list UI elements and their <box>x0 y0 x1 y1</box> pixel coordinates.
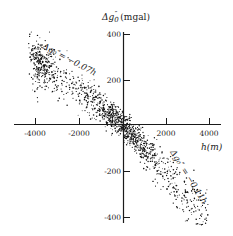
y-tick-label: 400 <box>107 30 122 39</box>
x-tick-label: 2000 <box>156 129 175 138</box>
x-tick-label: -4000 <box>24 129 46 138</box>
lower-line-label: Δg₀″ = −0.11h <box>168 147 210 206</box>
x-tick-label: 4000 <box>199 129 218 138</box>
x-axis-title: h(m) <box>201 142 223 152</box>
y-axis-title: Δg0″(mgal) <box>101 10 150 24</box>
y-tick-label: -200 <box>104 167 121 176</box>
y-tick-label: -400 <box>104 213 121 222</box>
scatter-chart: -4000 -2000 2000 4000 400 200 -200 -400 … <box>0 0 233 236</box>
scatter-points <box>28 31 209 225</box>
x-tick-label: -2000 <box>68 129 90 138</box>
y-tick-label: 200 <box>107 76 122 85</box>
